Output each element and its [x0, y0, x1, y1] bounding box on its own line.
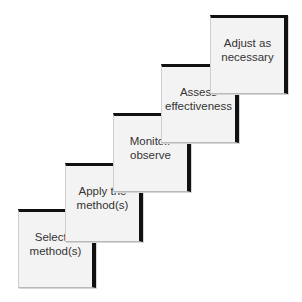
- step-label: Adjust as necessary: [211, 36, 284, 64]
- step-adjust-as-necessary: Adjust as necessary: [210, 15, 288, 94]
